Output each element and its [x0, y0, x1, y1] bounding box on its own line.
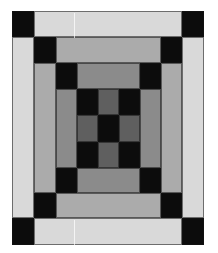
ring3-corner-bottom-left-patch — [56, 168, 77, 193]
ring1-corner-bottom-left-patch — [12, 218, 34, 245]
ring1-strip-left-patch — [12, 37, 34, 218]
center-right-patch — [119, 115, 140, 142]
ring1-corner-top-left-patch — [12, 11, 34, 37]
center-bottom-left-patch — [77, 142, 98, 168]
scan-line-artifact — [74, 13, 75, 38]
ring2-corner-bottom-right-patch — [161, 193, 182, 218]
scan-line-artifact — [74, 220, 75, 245]
center-middle-patch — [98, 115, 119, 142]
ring3-corner-top-right-patch — [140, 63, 161, 89]
center-top-left-patch — [77, 89, 98, 115]
ring2-strip-left-patch — [34, 63, 56, 193]
ring3-strip-right-patch — [140, 89, 161, 168]
ring1-corner-bottom-right-patch — [182, 218, 204, 245]
ring3-strip-left-patch — [56, 89, 77, 168]
quilt-block — [12, 11, 204, 245]
ring1-strip-top-patch — [34, 11, 182, 37]
center-top-right-patch — [119, 89, 140, 115]
ring1-strip-bottom-patch — [34, 218, 182, 245]
center-left-patch — [77, 115, 98, 142]
ring3-strip-bottom-patch — [77, 168, 140, 193]
ring2-strip-top-patch — [56, 37, 161, 63]
ring3-corner-bottom-right-patch — [140, 168, 161, 193]
ring2-strip-right-patch — [161, 63, 182, 193]
center-bottom-right-patch — [119, 142, 140, 168]
ring2-strip-bottom-patch — [56, 193, 161, 218]
center-bottom-patch — [98, 142, 119, 168]
ring3-corner-top-left-patch — [56, 63, 77, 89]
ring2-corner-top-left-patch — [34, 37, 56, 63]
ring1-strip-right-patch — [182, 37, 204, 218]
center-top-patch — [98, 89, 119, 115]
ring2-corner-bottom-left-patch — [34, 193, 56, 218]
ring2-corner-top-right-patch — [161, 37, 182, 63]
ring1-corner-top-right-patch — [182, 11, 204, 37]
ring3-strip-top-patch — [77, 63, 140, 89]
